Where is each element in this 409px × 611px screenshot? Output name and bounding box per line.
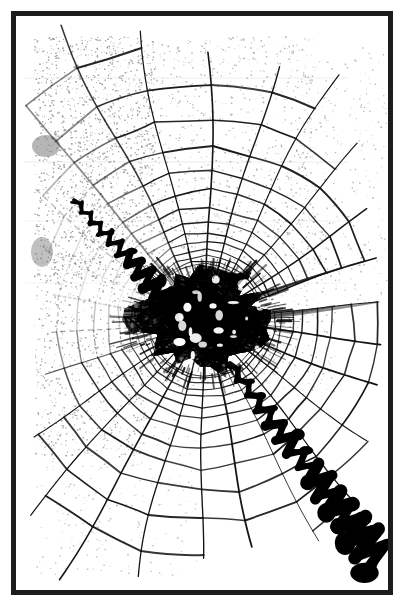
spider-web-illustration [16,16,388,590]
black-border-frame [11,11,393,595]
figure-plate [16,16,388,590]
figure-page: Spider orb web with central tangle [0,0,409,611]
